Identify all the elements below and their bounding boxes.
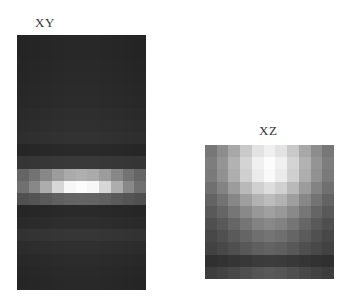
panel-label-xy: XY bbox=[35, 15, 55, 31]
panel-label-xz: XZ bbox=[259, 123, 277, 139]
image-panel-xy bbox=[17, 35, 146, 290]
image-panel-xz bbox=[205, 145, 334, 279]
